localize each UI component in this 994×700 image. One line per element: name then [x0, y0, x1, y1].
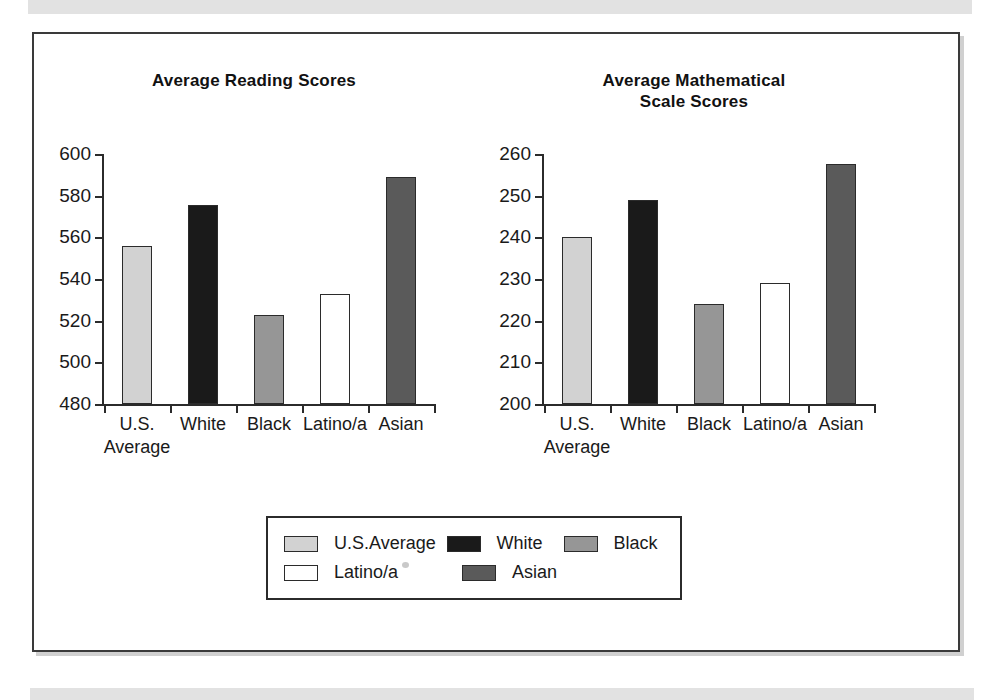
- legend-row-1: U.S.Average White Black: [284, 529, 664, 558]
- x-axis-category-label: White: [620, 413, 666, 436]
- x-axis-category-label: Black: [247, 413, 291, 436]
- x-axis-tick: [874, 404, 876, 413]
- y-axis-tick: [535, 321, 544, 323]
- x-axis-tick: [610, 404, 612, 413]
- legend-item-latino: Latino/a: [284, 562, 462, 583]
- x-axis-category-label: White: [180, 413, 226, 436]
- y-axis-tick: [95, 237, 104, 239]
- y-axis-label: 230: [499, 268, 531, 290]
- chart-panel-math: Average Mathematical Scale Scores 200210…: [464, 34, 924, 474]
- legend-swatch-latino: [284, 565, 318, 581]
- bar: [562, 237, 592, 404]
- y-axis-label: 260: [499, 143, 531, 165]
- y-axis-label: 520: [59, 310, 91, 332]
- y-axis-tick: [535, 362, 544, 364]
- legend-swatch-us-average: [284, 536, 318, 552]
- x-axis-tick: [302, 404, 304, 413]
- y-axis-tick: [95, 362, 104, 364]
- y-axis-tick: [95, 154, 104, 156]
- y-axis-label: 200: [499, 393, 531, 415]
- chart-title-reading: Average Reading Scores: [34, 70, 474, 91]
- bar: [122, 246, 152, 404]
- y-axis-label: 240: [499, 226, 531, 248]
- y-axis-tick: [535, 279, 544, 281]
- x-axis-tick: [434, 404, 436, 413]
- y-axis-tick: [95, 279, 104, 281]
- bar: [254, 315, 284, 404]
- bar: [628, 200, 658, 404]
- x-axis-tick: [104, 404, 106, 413]
- y-axis-label: 250: [499, 185, 531, 207]
- x-axis-category-label: Latino/a: [303, 413, 367, 436]
- page-root: Average Reading Scores 48050052054056058…: [0, 0, 994, 700]
- y-axis-label: 210: [499, 351, 531, 373]
- y-axis-label: 580: [59, 185, 91, 207]
- x-axis-tick: [236, 404, 238, 413]
- y-axis-tick: [95, 404, 104, 406]
- y-axis-tick: [535, 404, 544, 406]
- legend-label-us-average: U.S.Average: [334, 533, 436, 554]
- y-axis-label: 480: [59, 393, 91, 415]
- bar: [826, 164, 856, 404]
- figure-frame: Average Reading Scores 48050052054056058…: [32, 32, 960, 652]
- legend-label-black: Black: [614, 533, 658, 554]
- y-axis-label: 540: [59, 268, 91, 290]
- x-axis-tick: [170, 404, 172, 413]
- chart-title-math: Average Mathematical Scale Scores: [464, 70, 924, 113]
- x-axis-tick: [742, 404, 744, 413]
- bar: [188, 205, 218, 404]
- y-axis-tick: [535, 154, 544, 156]
- legend-item-black: Black: [564, 533, 664, 554]
- x-axis-category-label: Latino/a: [743, 413, 807, 436]
- legend-swatch-asian: [462, 565, 496, 581]
- legend-item-asian: Asian: [462, 562, 590, 583]
- y-axis-label: 560: [59, 226, 91, 248]
- legend: U.S.Average White Black Latino/a: [266, 516, 682, 600]
- bar: [760, 283, 790, 404]
- legend-row-2: Latino/a Asian: [284, 558, 664, 587]
- scan-band-bottom: [30, 688, 974, 700]
- x-axis-category-label: U.S. Average: [104, 413, 171, 458]
- x-axis-tick: [808, 404, 810, 413]
- y-axis-tick: [95, 321, 104, 323]
- x-axis-tick: [368, 404, 370, 413]
- legend-label-latino: Latino/a: [334, 562, 398, 583]
- y-axis-label: 220: [499, 310, 531, 332]
- plot-area-math: 200210220230240250260U.S. AverageWhiteBl…: [542, 154, 874, 406]
- scan-speck: [402, 562, 409, 568]
- legend-label-asian: Asian: [512, 562, 557, 583]
- legend-item-us-average: U.S.Average: [284, 533, 447, 554]
- y-axis-label: 500: [59, 351, 91, 373]
- x-axis-category-label: U.S. Average: [544, 413, 611, 458]
- legend-swatch-white: [447, 536, 481, 552]
- y-axis-label: 600: [59, 143, 91, 165]
- plot-area-reading: 480500520540560580600U.S. AverageWhiteBl…: [102, 154, 434, 406]
- x-axis-tick: [676, 404, 678, 413]
- x-axis-tick: [544, 404, 546, 413]
- bar: [320, 294, 350, 404]
- legend-label-white: White: [497, 533, 543, 554]
- legend-item-white: White: [447, 533, 564, 554]
- bar: [694, 304, 724, 404]
- y-axis-tick: [535, 237, 544, 239]
- legend-swatch-black: [564, 536, 598, 552]
- bar: [386, 177, 416, 404]
- x-axis-category-label: Asian: [378, 413, 423, 436]
- x-axis-category-label: Black: [687, 413, 731, 436]
- scan-band-top: [28, 0, 972, 14]
- y-axis-tick: [95, 196, 104, 198]
- y-axis-tick: [535, 196, 544, 198]
- chart-panel-reading: Average Reading Scores 48050052054056058…: [34, 34, 474, 474]
- x-axis-category-label: Asian: [818, 413, 863, 436]
